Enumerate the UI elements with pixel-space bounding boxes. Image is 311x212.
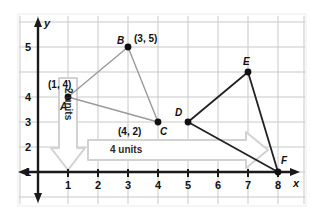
y-tick-4: 4 [25,92,31,103]
coord-label-c: (4, 2) [118,127,141,137]
point-b [125,44,132,51]
x-tick-4: 4 [155,180,161,191]
x-tick-8: 8 [275,180,281,191]
horizontal-arrow-label: 4 units [110,145,142,155]
y-tick-1: 1 [25,167,31,178]
x-tick-1: 1 [65,180,71,191]
point-c [155,119,162,126]
y-tick-5: 5 [25,42,31,53]
x-axis-label: x [293,178,299,189]
y-tick-3: 3 [25,117,31,128]
point-label-c: C [160,127,167,137]
coordinate-plane-figure: y x 5 4 3 2 1 1 2 3 4 5 6 7 8 A B C D E … [0,0,311,212]
point-f [275,169,282,176]
coord-label-b: (3, 5) [134,34,157,44]
y-axis-label: y [44,18,50,29]
x-tick-7: 7 [245,180,251,191]
point-e [245,69,252,76]
point-label-f: F [281,156,287,166]
x-tick-2: 2 [95,180,101,191]
x-tick-3: 3 [125,180,131,191]
point-label-e: E [243,57,250,67]
point-label-b: B [117,36,124,46]
point-d [185,119,192,126]
x-tick-5: 5 [185,180,191,191]
point-label-d: D [175,108,182,118]
y-tick-2: 2 [25,142,31,153]
x-tick-6: 6 [215,180,221,191]
vertical-arrow-label: 2 units [63,88,73,120]
